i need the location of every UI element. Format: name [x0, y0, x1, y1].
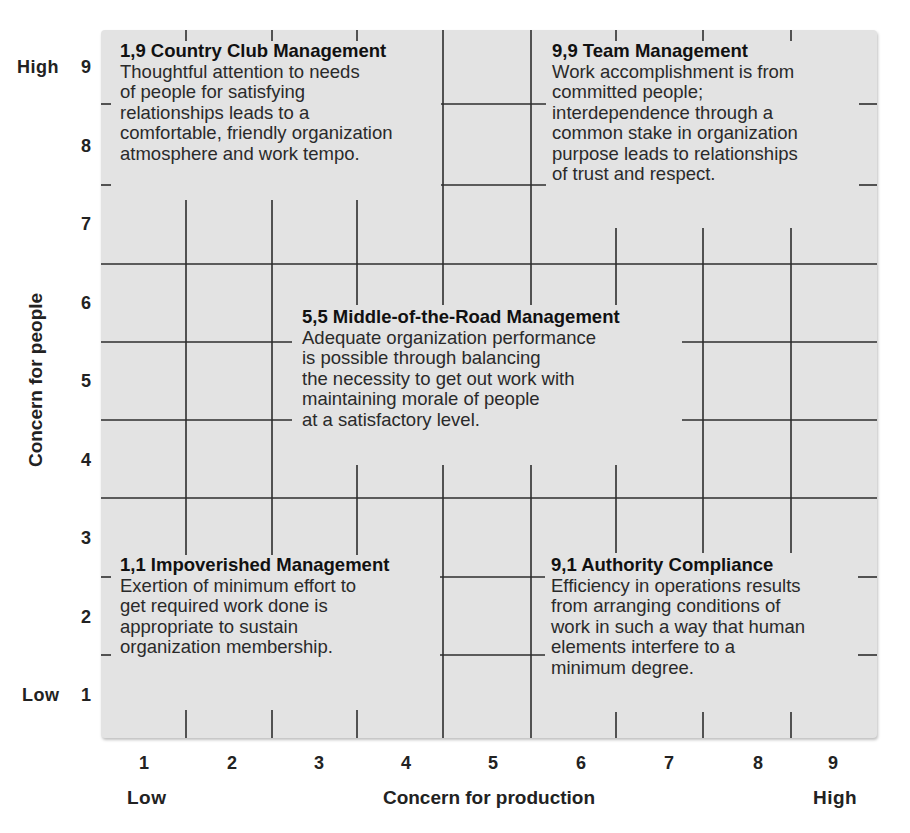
x-tick-5: 5 [478, 753, 508, 774]
y-axis-high-label: High [17, 57, 59, 78]
style-desc-line: comfortable, friendly organization [120, 123, 393, 144]
style-authority-compliance: 9,1 Authority Compliance Efficiency in o… [551, 555, 805, 678]
style-desc-line: of people for satisfying [120, 82, 393, 103]
x-axis-low-label: Low [127, 787, 167, 809]
style-desc-line: committed people; [552, 82, 798, 103]
style-desc-line: Adequate organization performance [302, 328, 620, 349]
x-tick-4: 4 [391, 753, 421, 774]
style-desc-line: appropriate to sustain [120, 617, 389, 638]
x-tick-7: 7 [654, 753, 684, 774]
style-desc-line: relationships leads to a [120, 103, 393, 124]
x-tick-1: 1 [129, 753, 159, 774]
style-desc-line: get required work done is [120, 596, 389, 617]
x-tick-2: 2 [217, 753, 247, 774]
style-desc-line: atmosphere and work tempo. [120, 144, 393, 165]
style-desc-line: at a satisfactory level. [302, 410, 620, 431]
style-desc-line: Efficiency in operations results [551, 576, 805, 597]
style-country-club: 1,9 Country Club Management Thoughtful a… [120, 41, 393, 164]
style-middle-of-the-road: 5,5 Middle-of-the-Road Management Adequa… [302, 307, 620, 430]
style-desc-line: Thoughtful attention to needs [120, 62, 393, 83]
y-tick-5: 5 [76, 371, 96, 392]
y-tick-2: 2 [76, 607, 96, 628]
x-axis-title: Concern for production [383, 787, 595, 809]
style-desc-line: work in such a way that human [551, 617, 805, 638]
y-tick-4: 4 [76, 450, 96, 471]
style-desc-line: maintaining morale of people [302, 389, 620, 410]
style-desc-line: Exertion of minimum effort to [120, 576, 389, 597]
style-title: 9,9 Team Management [552, 41, 798, 62]
y-tick-1: 1 [76, 685, 96, 706]
y-axis-title: Concern for people [25, 293, 47, 467]
x-tick-3: 3 [304, 753, 334, 774]
x-axis-high-label: High [813, 787, 857, 809]
y-tick-3: 3 [76, 528, 96, 549]
style-desc-line: minimum degree. [551, 658, 805, 679]
style-title: 1,1 Impoverished Management [120, 555, 389, 576]
style-title: 9,1 Authority Compliance [551, 555, 805, 576]
style-desc-line: from arranging conditions of [551, 596, 805, 617]
style-desc-line: the necessity to get out work with [302, 369, 620, 390]
style-desc-line: interdependence through a [552, 103, 798, 124]
style-team: 9,9 Team Management Work accomplishment … [552, 41, 798, 185]
style-desc-line: is possible through balancing [302, 348, 620, 369]
style-desc-line: common stake in organization [552, 123, 798, 144]
style-desc-line: purpose leads to relationships [552, 144, 798, 165]
style-desc-line: organization membership. [120, 637, 389, 658]
style-desc-line: of trust and respect. [552, 164, 798, 185]
x-tick-9: 9 [818, 753, 848, 774]
style-title: 1,9 Country Club Management [120, 41, 393, 62]
y-tick-6: 6 [76, 293, 96, 314]
style-impoverished: 1,1 Impoverished Management Exertion of … [120, 555, 389, 658]
y-tick-8: 8 [76, 136, 96, 157]
y-tick-7: 7 [76, 214, 96, 235]
style-desc-line: elements interfere to a [551, 637, 805, 658]
style-title: 5,5 Middle-of-the-Road Management [302, 307, 620, 328]
y-tick-9: 9 [76, 57, 96, 78]
y-axis-low-label: Low [22, 685, 60, 706]
x-tick-8: 8 [743, 753, 773, 774]
x-tick-6: 6 [566, 753, 596, 774]
style-desc-line: Work accomplishment is from [552, 62, 798, 83]
